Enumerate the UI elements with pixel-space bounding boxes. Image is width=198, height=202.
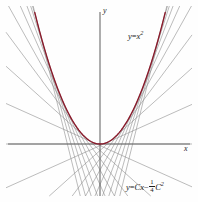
- tangent-line: [6, 103, 192, 186]
- tangent-line: [6, 104, 192, 187]
- curve-label-exponent: 2: [140, 30, 143, 36]
- tangent-family-figure: y x y=x2 y=Cx−14C2: [0, 0, 198, 202]
- axis-label-x-text: x: [184, 144, 188, 153]
- family-equation-label: y=Cx−14C2: [126, 179, 164, 194]
- axis-label-y: y: [103, 7, 107, 15]
- plot-canvas: [0, 0, 198, 202]
- tangent-line: [9, 6, 115, 196]
- tangent-line: [31, 6, 92, 196]
- tangent-line: [6, 66, 151, 196]
- tangent-line: [6, 32, 128, 196]
- tangent-line-family: [6, 6, 192, 196]
- axis-label-y-text: y: [103, 6, 107, 15]
- axis-label-x: x: [184, 145, 188, 153]
- one-quarter-fraction: 14: [149, 179, 154, 194]
- curve-equation-label: y=x2: [128, 32, 143, 41]
- family-label-minus: −: [144, 182, 149, 192]
- family-label-c2-exponent: 2: [161, 181, 164, 187]
- fraction-numerator: 1: [149, 179, 154, 186]
- fraction-denominator: 4: [149, 186, 154, 194]
